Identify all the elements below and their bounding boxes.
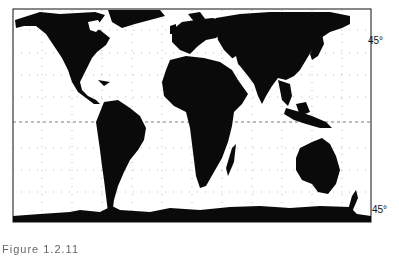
antarctica	[13, 206, 371, 222]
caribbean	[98, 80, 110, 86]
british-isles	[170, 24, 176, 34]
figure-caption: Figure 1.2.11	[2, 243, 79, 255]
south-america	[96, 100, 146, 215]
greenland	[108, 10, 165, 28]
landmasses	[13, 10, 371, 222]
southeast-asia	[278, 80, 292, 106]
australia	[296, 138, 340, 194]
madagascar	[226, 144, 236, 176]
world-map	[0, 0, 399, 256]
latitude-label-north: 45°	[368, 35, 383, 46]
latitude-label-south: 45°	[372, 204, 387, 215]
